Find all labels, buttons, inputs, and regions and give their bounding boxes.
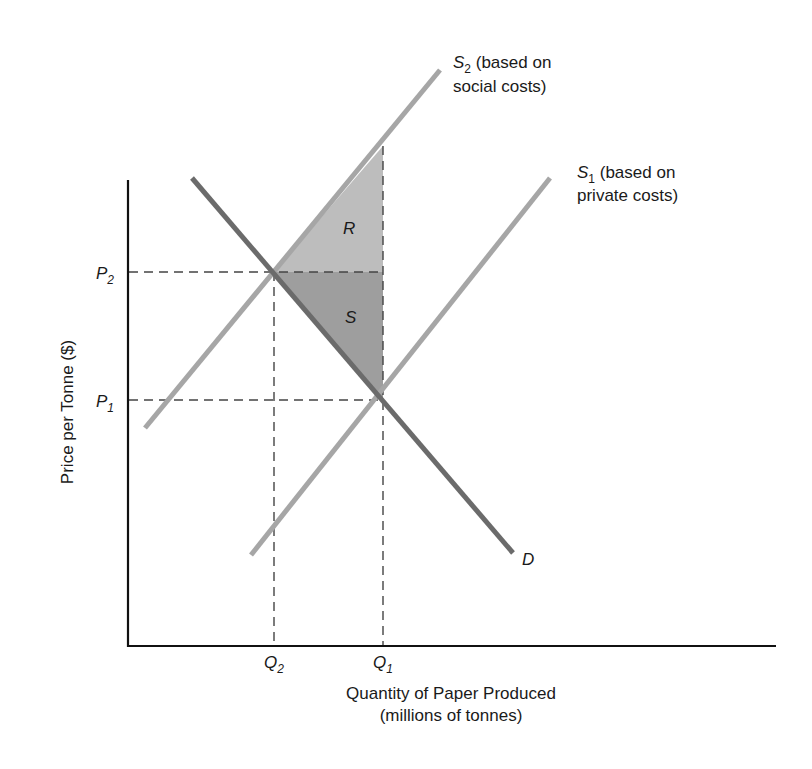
externality-supply-demand-chart: R S P2 P1 Q2 Q1 S2 (based on social cost… bbox=[0, 0, 812, 769]
s1-curve bbox=[251, 178, 550, 555]
demand-label: D bbox=[522, 550, 534, 569]
p1-tick-label: P1 bbox=[96, 392, 114, 415]
region-s-label: S bbox=[345, 308, 357, 327]
region-r-label: R bbox=[343, 219, 355, 238]
svg-text:S2 (based on: S2 (based on bbox=[453, 53, 551, 76]
s1-label: S1 (based on private costs) bbox=[577, 163, 678, 205]
x-axis-title-units: (millions of tonnes) bbox=[380, 706, 523, 725]
q1-tick-label: Q1 bbox=[373, 653, 393, 676]
q2-tick-label: Q2 bbox=[264, 653, 284, 676]
p2-tick-label: P2 bbox=[96, 264, 114, 287]
x-axis-title: Quantity of Paper Produced bbox=[346, 684, 556, 703]
svg-text:S1 (based on: S1 (based on bbox=[577, 163, 675, 186]
svg-text:private costs): private costs) bbox=[577, 186, 678, 205]
y-axis-title: Price per Tonne ($) bbox=[58, 340, 77, 484]
s2-label: S2 (based on social costs) bbox=[453, 53, 551, 96]
axes bbox=[127, 180, 776, 647]
svg-text:social costs): social costs) bbox=[453, 77, 547, 96]
